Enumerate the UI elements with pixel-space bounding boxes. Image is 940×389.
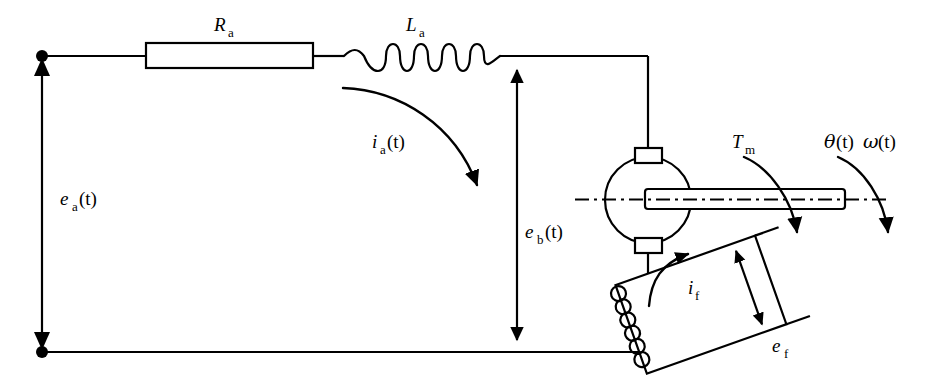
armature-current-curve <box>343 88 477 185</box>
armature-voltage-subscript: a <box>72 199 78 214</box>
armature-voltage-label: e a (t) <box>60 188 97 214</box>
terminal-top-node-dot <box>36 50 48 62</box>
angular-output-arrow: θ (t) ω (t) <box>824 130 896 232</box>
resistor-label-subscript: a <box>228 25 234 40</box>
armature-voltage-base: e <box>60 188 68 209</box>
back-emf-arg: (t) <box>545 221 563 243</box>
inductor-coil <box>344 44 500 71</box>
inductor-La: L a <box>344 14 500 71</box>
angular-velocity-base: ω <box>863 130 879 152</box>
field-voltage-label: e f <box>772 335 789 361</box>
angular-position-base: θ <box>824 130 836 152</box>
angular-velocity-arg: (t) <box>878 131 896 153</box>
back-emf-subscript: b <box>537 232 544 247</box>
armature-current-arg: (t) <box>387 131 405 153</box>
brush-bottom <box>635 238 662 253</box>
resistor-body <box>146 43 313 68</box>
field-current-subscript: f <box>695 288 700 303</box>
motor-torque-subscript: m <box>745 142 755 157</box>
field-voltage-base: e <box>772 335 780 356</box>
field-lead-top <box>755 227 779 235</box>
motor-torque-arrow: T m <box>732 131 797 232</box>
armature-current-subscript: a <box>380 142 386 157</box>
armature-current-arrow: i a (t) <box>343 88 477 185</box>
dc-motor-schematic: e a (t) R a L a i a (t) e b (t) <box>0 0 940 389</box>
angular-position-arg: (t) <box>836 131 854 153</box>
back-emf-measure: e b (t) <box>517 70 563 340</box>
circuit-diagram-canvas: e a (t) R a L a i a (t) e b (t) <box>0 0 940 389</box>
armature-voltage-arg: (t) <box>79 188 97 210</box>
inductor-label-subscript: a <box>419 25 425 40</box>
motor-torque-base: T <box>732 131 744 152</box>
resistor-label-base: R <box>213 14 226 35</box>
circuit-wiring <box>42 56 648 352</box>
terminal-bottom-node-dot <box>36 346 48 358</box>
brush-top <box>635 148 662 163</box>
field-voltage-subscript: f <box>784 346 789 361</box>
resistor-Ra: R a <box>146 14 313 68</box>
back-emf-base: e <box>525 221 533 242</box>
inductor-label-base: L <box>405 14 417 35</box>
field-current-base: i <box>688 277 693 298</box>
field-lead-bottom <box>786 316 810 324</box>
armature-current-base: i <box>372 131 377 152</box>
